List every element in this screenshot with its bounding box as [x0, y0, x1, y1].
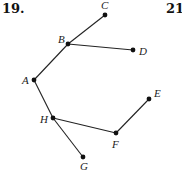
node-H — [51, 116, 56, 121]
node-label-D: D — [138, 45, 147, 57]
edge-FE — [116, 99, 149, 133]
edge-BD — [68, 44, 133, 50]
node-B — [66, 42, 71, 47]
edge-BC — [68, 15, 105, 44]
node-D — [131, 48, 136, 53]
edges — [34, 15, 149, 157]
node-label-G: G — [80, 160, 88, 171]
node-label-F: F — [111, 138, 119, 150]
node-label-C: C — [101, 0, 109, 11]
node-label-B: B — [58, 33, 65, 45]
node-E — [147, 97, 152, 102]
edge-AB — [34, 44, 68, 80]
node-G — [81, 155, 86, 160]
nodes — [32, 13, 152, 160]
node-label-E: E — [153, 87, 161, 99]
node-C — [103, 13, 108, 18]
node-label-A: A — [21, 74, 29, 86]
node-A — [32, 78, 37, 83]
tree-diagram: ABCDEFGH — [0, 0, 182, 171]
node-F — [114, 131, 119, 136]
node-label-H: H — [39, 113, 49, 125]
